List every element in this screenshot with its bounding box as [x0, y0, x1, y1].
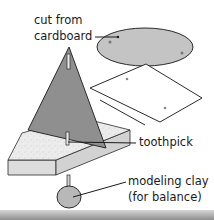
toothpick-bottom: [67, 175, 70, 187]
toothpick-top: [67, 54, 70, 69]
label-cut-from-line2: cardboard: [34, 30, 92, 43]
leader-dot: [117, 36, 119, 38]
hole-dot: [109, 41, 112, 44]
hole-dot: [181, 52, 184, 55]
hole-dot: [126, 78, 129, 81]
base-slab-side-front: [8, 160, 56, 175]
toothpick-middle: [66, 132, 69, 145]
modeling-clay-ball: [57, 186, 81, 208]
label-clay-line2: (for balance): [128, 191, 202, 204]
ground-strip: [0, 210, 214, 220]
hole-dot: [164, 107, 167, 110]
label-toothpick: toothpick: [139, 136, 193, 149]
label-clay-line1: modeling clay: [128, 175, 209, 188]
square-cardboard-piece: [90, 64, 202, 122]
label-cut-from-line1: cut from: [34, 14, 83, 27]
leader-line-clay: [73, 182, 126, 197]
diagram-canvas: cut from cardboard toothpick modeling cl…: [0, 0, 214, 220]
ellipse-cardboard-piece: [97, 28, 193, 66]
